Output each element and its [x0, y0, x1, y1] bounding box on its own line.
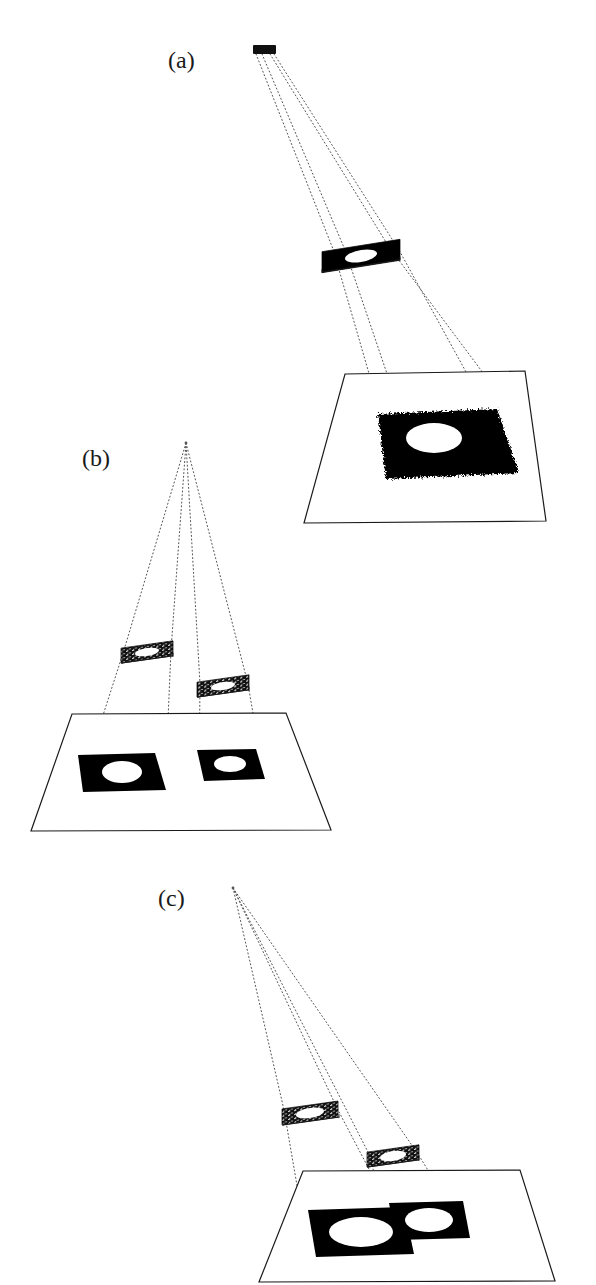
- point-source: [253, 45, 276, 54]
- patch-aperture-hole: [406, 423, 462, 453]
- figure-canvas: [0, 0, 596, 1285]
- panel-b: [31, 442, 331, 831]
- projected-spot-1: [378, 409, 519, 479]
- patch-aperture-hole: [405, 1208, 453, 1232]
- patch-aperture-hole: [214, 756, 246, 772]
- ray-line-3: [270, 54, 510, 409]
- ray-apex: [232, 887, 235, 890]
- figure-root: (a) (b) (c): [0, 0, 596, 1285]
- projected-spot-2: [197, 749, 265, 781]
- projection-screen: [31, 713, 331, 831]
- projected-spot-1: [78, 753, 166, 792]
- panel-c: [232, 887, 555, 1282]
- patch-aperture-hole: [329, 1217, 393, 1247]
- projected-spot-2: [389, 1201, 470, 1240]
- ray-apex: [185, 442, 188, 445]
- patch-aperture-hole: [102, 761, 142, 783]
- ray-line-1: [256, 54, 381, 415]
- panel-a: [253, 45, 546, 523]
- aperture-mask-1: [322, 239, 400, 272]
- ray-line-2: [262, 54, 400, 412]
